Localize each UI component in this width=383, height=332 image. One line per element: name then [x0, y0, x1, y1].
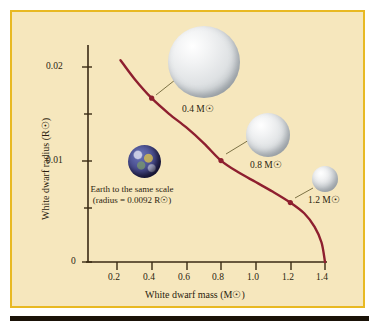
xtick-label-0.4: 0.4: [143, 272, 155, 282]
leader-line-04: [156, 80, 175, 95]
xtick-label-1.2: 1.2: [282, 272, 294, 282]
x-axis-title: White dwarf mass (M☉): [145, 289, 245, 300]
y-axis-title: White dwarf radius (R☉): [40, 118, 51, 220]
earth-note-line-2: (radius = 0.0092 R☉): [62, 195, 202, 206]
white-dwarf-sphere-04: [168, 26, 240, 98]
earth-note-line-1: Earth to the same scale: [62, 184, 202, 195]
xtick-label-1.0: 1.0: [247, 272, 259, 282]
xtick-label-0.2: 0.2: [108, 272, 120, 282]
earth-sphere: [128, 145, 161, 178]
earth-scale-note: Earth to the same scale (radius = 0.0092…: [62, 184, 202, 206]
xtick-label-0.6: 0.6: [178, 272, 190, 282]
sphere-label-08: 0.8 M☉: [250, 159, 282, 170]
data-point-marker: [288, 200, 293, 205]
white-dwarf-sphere-08: [246, 113, 290, 157]
leader-line-08: [226, 140, 249, 154]
xtick-label-1.4: 1.4: [316, 272, 328, 282]
sphere-label-04: 0.4 M☉: [182, 103, 214, 114]
xtick-label-0.8: 0.8: [212, 272, 224, 282]
ytick-label-0.02: 0.02: [46, 61, 63, 71]
sphere-label-12: 1.2 M☉: [308, 194, 340, 205]
white-dwarf-mass-radius-figure: 0.02 0.01 0 0.2 0.4 0.6 0.8 1.0 1.2 1.4 …: [0, 0, 383, 332]
data-point-marker: [218, 158, 223, 163]
white-dwarf-sphere-12: [312, 166, 338, 192]
ytick-label-0: 0: [71, 256, 76, 266]
data-point-marker: [149, 96, 154, 101]
